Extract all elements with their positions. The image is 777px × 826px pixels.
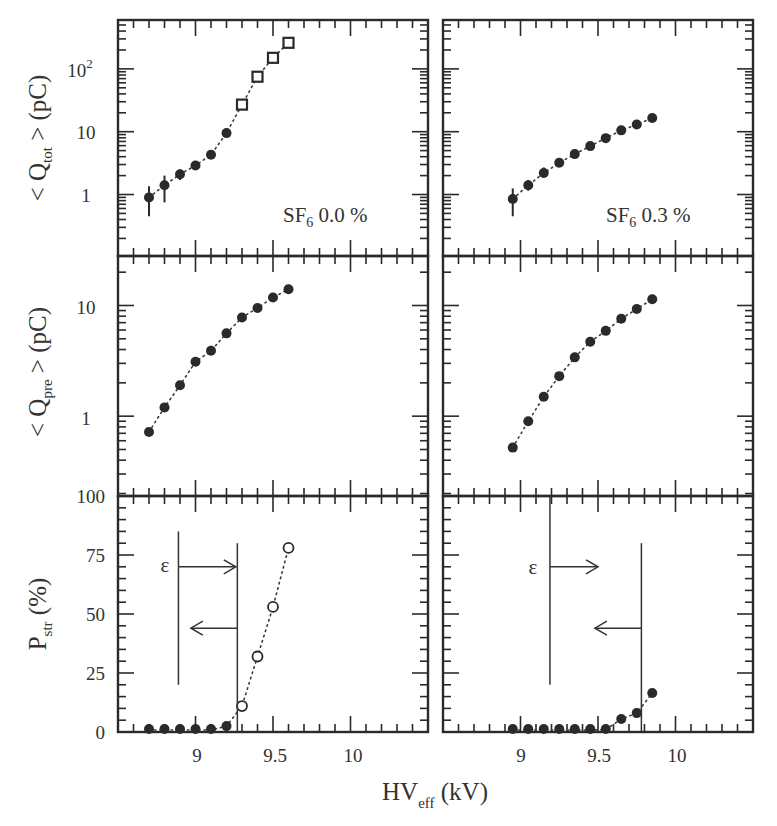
data-point-filled: [253, 303, 263, 313]
panel-frame-bottom-left: [118, 496, 428, 732]
data-point-filled: [144, 427, 154, 437]
data-point-filled: [222, 128, 232, 138]
data-point-filled: [508, 443, 518, 453]
ylabel-qpre: < Qpre > (pC): [24, 307, 55, 437]
xtick-label-right-10: 10: [668, 745, 687, 766]
data-point-square: [253, 72, 263, 82]
data-point-filled: [206, 150, 216, 160]
sf6-label-right: SF6 0.3 %: [606, 203, 691, 230]
panel-frame-middle-left: [118, 256, 428, 496]
data-point-square: [237, 100, 247, 110]
data-point-filled: [616, 314, 626, 324]
data-point-filled: [585, 141, 595, 151]
data-point-filled: [175, 169, 185, 179]
xtick-label-right-9-5: 9.5: [587, 745, 611, 766]
data-point-filled: [554, 158, 564, 168]
data-point-filled: [539, 392, 549, 402]
data-point-filled: [570, 149, 580, 159]
data-point-filled: [570, 352, 580, 362]
xtick-label-left-10: 10: [344, 745, 363, 766]
data-point-filled: [222, 328, 232, 338]
data-point-filled: [284, 284, 294, 294]
ylabel-qtot: < Qtot > (pC): [24, 75, 55, 202]
data-point-open: [284, 543, 294, 553]
ytick-label-top-1: 1: [81, 185, 91, 206]
xtick-label-left-9: 9: [192, 745, 202, 766]
data-point-filled: [268, 293, 278, 303]
data-point-filled: [160, 402, 170, 412]
sf6-label-left: SF6 0.0 %: [283, 203, 368, 230]
data-point-filled: [144, 192, 154, 202]
data-point-open: [237, 701, 247, 711]
data-point-filled: [191, 160, 201, 170]
axis-ticks: [118, 20, 753, 732]
figure: 1 10 102 1 10 0 25 50 75 100 9 9.5 10 9 …: [0, 0, 777, 826]
epsilon-label-right: ε: [529, 555, 538, 579]
data-point-filled: [222, 721, 232, 731]
panel-frame-top-right: [443, 20, 753, 256]
ytick-label-mid-1: 1: [81, 408, 91, 429]
ytick-label-bot-50: 50: [86, 604, 105, 625]
data-point-open: [253, 651, 263, 661]
data-point-filled: [601, 133, 611, 143]
data-point-filled: [237, 312, 247, 322]
ytick-label-bot-100: 100: [77, 486, 106, 507]
fit-line: [149, 43, 289, 198]
data-point-filled: [632, 708, 642, 718]
fit-line: [149, 548, 289, 730]
chart-canvas: 1 10 102 1 10 0 25 50 75 100 9 9.5 10 9 …: [0, 0, 777, 826]
ytick-label-bot-0: 0: [96, 722, 106, 743]
data-point-filled: [647, 294, 657, 304]
ytick-label-top-10: 10: [77, 122, 96, 143]
data-point-filled: [601, 326, 611, 336]
data-point-filled: [160, 180, 170, 190]
fit-line: [513, 118, 653, 199]
ytick-label-bot-75: 75: [86, 545, 105, 566]
data-point-open: [268, 602, 278, 612]
data-points: [144, 38, 657, 734]
data-point-filled: [632, 304, 642, 314]
xtick-label-left-9-5: 9.5: [263, 745, 287, 766]
data-point-square: [284, 38, 294, 48]
data-point-filled: [554, 371, 564, 381]
fit-line: [149, 289, 289, 432]
data-point-filled: [206, 346, 216, 356]
data-point-filled: [632, 120, 642, 130]
ytick-label-bot-25: 25: [86, 663, 105, 684]
annotations: [178, 496, 641, 732]
data-point-filled: [616, 714, 626, 724]
xtick-label-right-9: 9: [516, 745, 526, 766]
data-point-filled: [523, 180, 533, 190]
data-point-filled: [508, 194, 518, 204]
data-point-filled: [616, 125, 626, 135]
data-point-filled: [585, 337, 595, 347]
data-point-filled: [539, 168, 549, 178]
data-point-filled: [647, 688, 657, 698]
panel-frame-bottom-right: [443, 496, 753, 732]
ytick-label-top-100: 102: [67, 56, 93, 81]
data-point-filled: [523, 416, 533, 426]
data-point-filled: [191, 357, 201, 367]
epsilon-label-left: ε: [161, 553, 170, 577]
panel-frame-middle-right: [443, 256, 753, 496]
data-point-square: [268, 53, 278, 63]
fit-line: [513, 299, 653, 447]
data-point-filled: [647, 113, 657, 123]
data-point-filled: [175, 380, 185, 390]
ytick-label-mid-10: 10: [77, 297, 96, 318]
xlabel-hveff: HVeff (kV): [382, 778, 488, 811]
ylabel-pstr: Pstr (%): [24, 578, 55, 651]
